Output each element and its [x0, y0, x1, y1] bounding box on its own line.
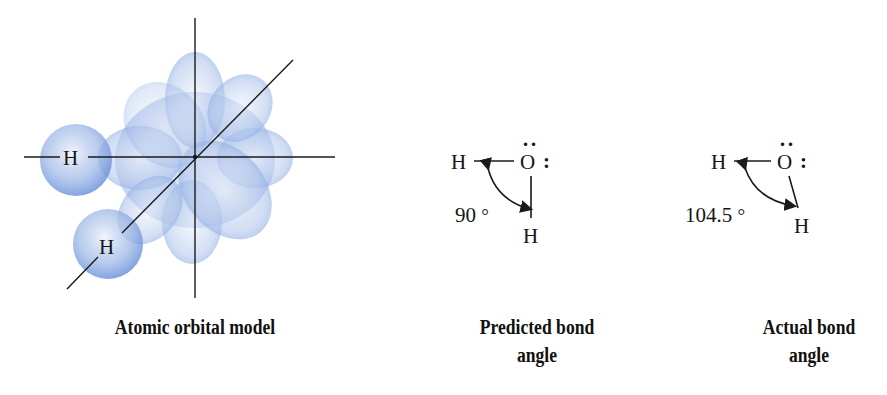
- caption-line-2: angle: [747, 341, 870, 369]
- actual-hydrogen-bottom: H: [794, 216, 809, 237]
- degree-symbol: °: [738, 205, 746, 226]
- actual-hydrogen-left: H: [711, 152, 726, 173]
- caption-line-1: Actual bond: [747, 313, 870, 341]
- caption-actual-bond-angle: Actual bond angle: [747, 313, 870, 369]
- angle-number: 104.5: [685, 203, 732, 227]
- actual-lone-pair-top: ··: [779, 134, 795, 155]
- actual-lone-pair-right: :: [800, 151, 807, 172]
- actual-angle-value: 104.5 °: [685, 205, 745, 226]
